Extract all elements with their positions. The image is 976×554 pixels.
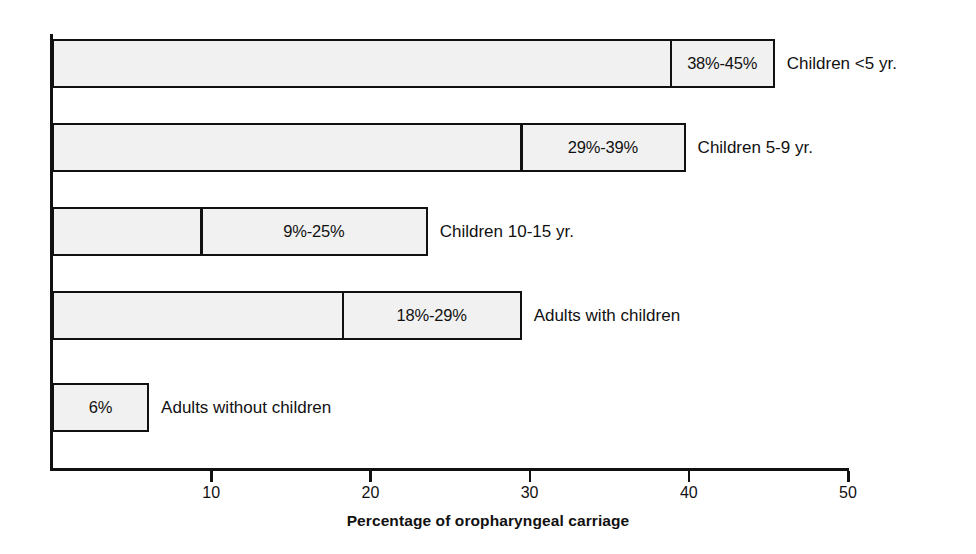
- bar-value-label: 29%-39%: [520, 123, 686, 172]
- plot-area: 38%-45%Children <5 yr.29%-39%Children 5-…: [0, 0, 976, 480]
- bar-rect: [52, 39, 775, 88]
- bar-category-label: Adults with children: [534, 291, 680, 340]
- x-axis-tick-label: 50: [839, 484, 857, 502]
- x-axis-tick: [210, 471, 213, 482]
- x-axis-tick-label: 20: [361, 484, 379, 502]
- x-axis-tick-label: 10: [202, 484, 220, 502]
- bar-category-label: Children <5 yr.: [787, 39, 897, 88]
- x-axis-tick: [369, 471, 372, 482]
- x-axis-line: [50, 468, 849, 471]
- bar-value-label: 18%-29%: [342, 291, 522, 340]
- bar-category-label: Children 5-9 yr.: [698, 123, 813, 172]
- x-axis-tick: [847, 471, 850, 482]
- bar-category-label: Children 10-15 yr.: [440, 207, 574, 256]
- x-axis-tick: [688, 471, 691, 482]
- x-axis-tick: [529, 471, 532, 482]
- chart-figure: 38%-45%Children <5 yr.29%-39%Children 5-…: [0, 0, 976, 554]
- bar-value-label: 38%-45%: [670, 39, 775, 88]
- x-axis-tick-label: 30: [521, 484, 539, 502]
- bar-value-label: 6%: [52, 383, 149, 432]
- x-axis-title: Percentage of oropharyngeal carriage: [0, 512, 976, 530]
- bar-value-label: 9%-25%: [200, 207, 428, 256]
- x-axis-tick-label: 40: [680, 484, 698, 502]
- bar-category-label: Adults without children: [161, 383, 331, 432]
